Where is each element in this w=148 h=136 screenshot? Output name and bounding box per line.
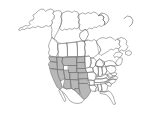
region-north-dakota [77,57,85,63]
region-montana [62,57,77,66]
region-saskatchewan [67,42,78,57]
region-northwest-territories [60,11,81,31]
region-manitoba [77,41,86,57]
north-america-map: North America outline map Thumbnail map … [0,0,148,136]
region-kansas [79,73,89,80]
map-figure: North America outline map Thumbnail map … [0,0,148,136]
region-wyoming [69,66,78,73]
region-south-dakota [77,63,86,69]
region-newfoundland-island [126,51,132,56]
region-colorado [70,73,79,81]
